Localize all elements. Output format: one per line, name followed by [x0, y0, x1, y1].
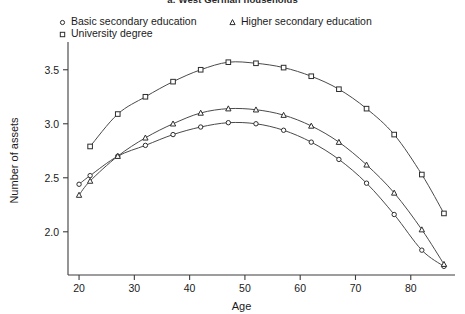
square-marker	[364, 106, 369, 111]
square-marker	[281, 65, 286, 70]
circle-marker	[143, 143, 147, 147]
circle-marker	[337, 157, 341, 161]
circle-marker	[309, 140, 313, 144]
y-tick-label: 3.0	[44, 118, 59, 130]
y-tick-label: 2.5	[44, 172, 59, 184]
square-marker	[115, 112, 120, 117]
square-marker	[309, 74, 314, 79]
x-tick-label: 40	[184, 282, 196, 294]
y-axis-ticks: 2.02.53.03.5	[44, 64, 68, 238]
square-marker	[88, 144, 93, 149]
triangle-marker	[309, 123, 314, 128]
triangle-marker	[198, 110, 203, 115]
x-tick-label: 30	[128, 282, 140, 294]
x-tick-label: 80	[405, 282, 417, 294]
square-marker	[392, 132, 397, 137]
series-line	[79, 108, 444, 264]
square-marker	[420, 172, 425, 177]
triangle-marker	[281, 112, 286, 117]
square-marker	[171, 79, 176, 84]
y-tick-label: 2.0	[44, 226, 59, 238]
square-marker	[143, 94, 148, 99]
square-marker	[226, 60, 231, 65]
y-tick-label: 3.5	[44, 64, 59, 76]
circle-marker	[364, 181, 368, 185]
circle-marker	[198, 125, 202, 129]
square-marker	[198, 67, 203, 72]
plot-area: 2.02.53.03.5 20304050607080 Age Number o…	[0, 0, 465, 314]
triangle-marker	[143, 135, 148, 140]
series-layer	[76, 60, 446, 269]
x-axis-title: Age	[232, 300, 252, 312]
series-higher-secondary-education	[76, 106, 446, 267]
circle-marker	[392, 212, 396, 216]
x-tick-label: 70	[350, 282, 362, 294]
series-line	[90, 62, 444, 214]
x-tick-label: 50	[239, 282, 251, 294]
square-marker	[442, 211, 447, 216]
triangle-marker	[253, 107, 258, 112]
axis-layer: 2.02.53.03.5 20304050607080 Age Number o…	[8, 42, 455, 312]
circle-marker	[77, 182, 81, 186]
series-basic-secondary-education	[77, 120, 446, 268]
circle-marker	[226, 120, 230, 124]
series-line	[79, 122, 444, 266]
circle-marker	[420, 248, 424, 252]
triangle-marker	[170, 121, 175, 126]
x-axis-ticks: 20304050607080	[73, 275, 417, 294]
x-tick-label: 60	[294, 282, 306, 294]
circle-marker	[171, 132, 175, 136]
square-marker	[337, 87, 342, 92]
y-axis-title: Number of assets	[8, 117, 20, 204]
square-marker	[254, 61, 259, 66]
chart-figure: a: West German households Basic secondar…	[0, 0, 465, 314]
circle-marker	[254, 122, 258, 126]
x-tick-label: 20	[73, 282, 85, 294]
triangle-marker	[336, 139, 341, 144]
circle-marker	[281, 128, 285, 132]
triangle-marker	[226, 106, 231, 111]
